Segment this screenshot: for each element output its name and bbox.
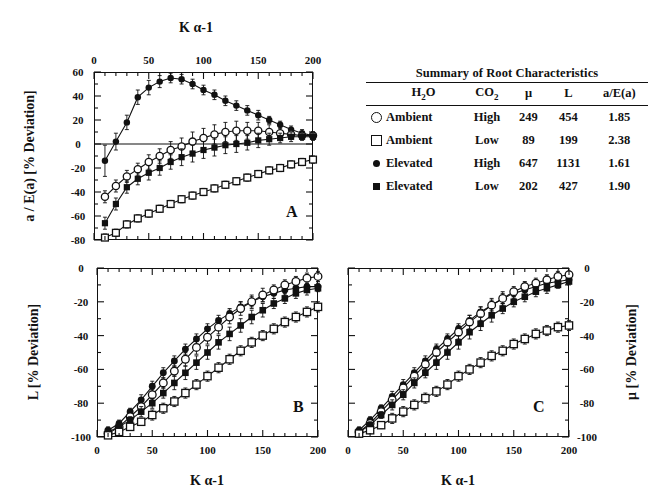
y-tick-label: 0 bbox=[75, 138, 81, 150]
y-tick-label: -80 bbox=[580, 397, 595, 409]
legend-row: AmbientHigh2494541.85 bbox=[366, 105, 648, 129]
panel-c-y-axis-label: μ [% Deviation] bbox=[624, 304, 640, 400]
y-tick-label: -20 bbox=[71, 162, 86, 174]
legend-cell-ratio: 1.90 bbox=[591, 175, 648, 198]
legend-cell-co2: High bbox=[463, 105, 511, 129]
legend-cell-ratio: 1.85 bbox=[591, 105, 648, 129]
legend-header-row: H2O CO2 μ L a/E(a) bbox=[366, 83, 648, 106]
y-tick-label: 20 bbox=[73, 114, 84, 126]
panel-c-letter: C bbox=[533, 398, 545, 416]
legend-cell-mu: 202 bbox=[511, 175, 547, 198]
legend-cell-ratio: 2.38 bbox=[591, 129, 648, 152]
y-tick-label: -20 bbox=[580, 296, 595, 308]
x-tick-label: 0 bbox=[91, 54, 97, 66]
legend-cell-l: 199 bbox=[546, 129, 590, 152]
y-tick-label: 40 bbox=[73, 90, 84, 102]
panel-a-tick-layer bbox=[94, 72, 313, 240]
legend-cell-co2: Low bbox=[463, 175, 511, 198]
legend-cell-l: 427 bbox=[546, 175, 590, 198]
y-tick-label: -40 bbox=[74, 330, 89, 342]
legend-cell-l: 454 bbox=[546, 105, 590, 129]
panel-b-letter: B bbox=[293, 398, 304, 416]
y-tick-label: -80 bbox=[74, 397, 89, 409]
legend-table: H2O CO2 μ L a/E(a) AmbientHigh2494541.85… bbox=[366, 82, 648, 198]
legend-col-mu: μ bbox=[511, 83, 547, 106]
x-tick-label: 0 bbox=[345, 444, 351, 456]
legend-cell-h2o: Ambient bbox=[384, 105, 463, 129]
top-axis-title: K α-1 bbox=[179, 20, 213, 36]
y-tick-label: 0 bbox=[78, 262, 84, 274]
panel-a-letter: A bbox=[286, 203, 298, 221]
legend-col-l: L bbox=[546, 83, 590, 106]
legend-cell-h2o: Ambient bbox=[384, 129, 463, 152]
legend-marker-open-square-icon bbox=[366, 129, 384, 152]
legend-body: AmbientHigh2494541.85AmbientLow891992.38… bbox=[366, 105, 648, 198]
panel-b-x-axis-label: K α-1 bbox=[190, 473, 224, 489]
y-tick-label: -100 bbox=[577, 431, 597, 443]
legend-marker-col-header bbox=[366, 83, 384, 106]
y-tick-label: -40 bbox=[71, 186, 86, 198]
x-tick-label: 100 bbox=[450, 444, 467, 456]
x-tick-label: 200 bbox=[310, 444, 327, 456]
legend-cell-co2: Low bbox=[463, 129, 511, 152]
legend-row: ElevatedHigh64711311.61 bbox=[366, 152, 648, 175]
legend-col-co2: CO2 bbox=[463, 83, 511, 106]
legend-caption: Summary of Root Characteristics bbox=[366, 66, 648, 81]
legend-cell-l: 1131 bbox=[546, 152, 590, 175]
legend-col-h2o: H2O bbox=[384, 83, 463, 106]
legend-row: ElevatedLow2024271.90 bbox=[366, 175, 648, 198]
legend-cell-h2o: Elevated bbox=[384, 175, 463, 198]
legend-row: AmbientLow891992.38 bbox=[366, 129, 648, 152]
x-tick-label: 200 bbox=[305, 54, 322, 66]
figure-root: K α-1 050100150200-80-60-40-200204060 A … bbox=[0, 0, 661, 504]
legend-marker-open-circle-icon bbox=[366, 105, 384, 129]
panel-b-tick-layer bbox=[97, 268, 318, 437]
x-tick-label: 150 bbox=[255, 444, 272, 456]
x-tick-label: 200 bbox=[561, 444, 578, 456]
root-characteristics-legend: Summary of Root Characteristics H2O CO2 … bbox=[366, 66, 648, 198]
legend-cell-co2: High bbox=[463, 152, 511, 175]
legend-cell-h2o: Elevated bbox=[384, 152, 463, 175]
y-tick-label: -60 bbox=[71, 210, 86, 222]
panel-a-y-axis-label: a / E(a) [% Deviation] bbox=[22, 90, 38, 221]
legend-cell-mu: 249 bbox=[511, 105, 547, 129]
y-tick-label: -80 bbox=[71, 234, 86, 246]
y-tick-label: -20 bbox=[74, 296, 89, 308]
panel-c-x-axis-label: K α-1 bbox=[441, 473, 475, 489]
legend-cell-mu: 89 bbox=[511, 129, 547, 152]
x-tick-label: 100 bbox=[195, 54, 212, 66]
legend-marker-filled-square-icon bbox=[366, 175, 384, 198]
x-tick-label: 50 bbox=[398, 444, 409, 456]
x-tick-label: 100 bbox=[199, 444, 216, 456]
panel-b-y-axis-label: L [% Deviation] bbox=[26, 304, 42, 400]
y-tick-label: -100 bbox=[71, 431, 91, 443]
y-tick-label: -60 bbox=[580, 363, 595, 375]
legend-col-ratio: a/E(a) bbox=[591, 83, 648, 106]
x-tick-label: 150 bbox=[506, 444, 523, 456]
x-tick-label: 0 bbox=[94, 444, 100, 456]
x-tick-label: 150 bbox=[250, 54, 267, 66]
x-tick-label: 50 bbox=[147, 444, 158, 456]
y-tick-label: -40 bbox=[580, 330, 595, 342]
legend-marker-filled-circle-icon bbox=[366, 152, 384, 175]
x-tick-label: 50 bbox=[143, 54, 154, 66]
legend-cell-ratio: 1.61 bbox=[591, 152, 648, 175]
y-tick-label: -60 bbox=[74, 363, 89, 375]
y-tick-label: 0 bbox=[584, 262, 590, 274]
y-tick-label: 60 bbox=[73, 66, 84, 78]
legend-cell-mu: 647 bbox=[511, 152, 547, 175]
